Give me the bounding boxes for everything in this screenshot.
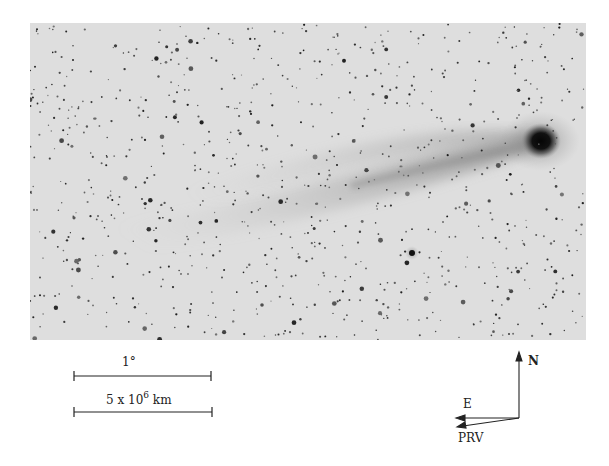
north-label: N bbox=[528, 354, 539, 368]
prv-arrow-line bbox=[463, 418, 519, 426]
east-arrow-icon bbox=[456, 415, 465, 421]
distance-scale-label: 5 x 106 km bbox=[106, 390, 172, 407]
comet-nucleus bbox=[521, 123, 561, 159]
dust-tail bbox=[50, 135, 542, 263]
distance-scale-unit: km bbox=[149, 393, 171, 407]
comet-photograph bbox=[30, 23, 586, 340]
distance-scale-main: 5 x 10 bbox=[106, 393, 143, 407]
comet-image bbox=[30, 23, 586, 340]
bright-star bbox=[409, 250, 415, 256]
north-arrow-icon bbox=[516, 352, 522, 361]
east-label: E bbox=[463, 397, 472, 411]
prv-arrow-icon bbox=[457, 422, 466, 428]
prv-label: PRV bbox=[458, 431, 483, 445]
star-field bbox=[30, 23, 584, 340]
angular-scale-label: 1° bbox=[122, 355, 136, 369]
